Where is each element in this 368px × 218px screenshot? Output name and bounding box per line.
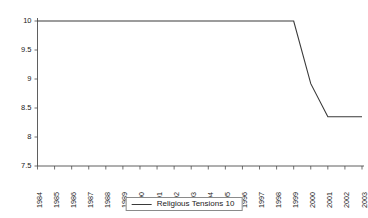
y-tick-label: 9 bbox=[27, 74, 31, 83]
x-tick-label: 1999 bbox=[291, 192, 300, 208]
y-tick-label: 8.5 bbox=[21, 103, 31, 112]
y-tick-group: 109.598.587.5 bbox=[21, 16, 37, 170]
x-tick-label: 1998 bbox=[274, 192, 283, 208]
y-axis: 109.598.587.5 bbox=[21, 16, 37, 170]
x-tick-label: 1988 bbox=[103, 192, 112, 208]
x-tick-label: 1987 bbox=[86, 192, 95, 208]
x-tick-label: 1997 bbox=[257, 192, 266, 208]
legend-label-religious-tensions: Religious Tensions 10 bbox=[157, 199, 235, 209]
line-chart: 109.598.587.5 19841985198619871988198919… bbox=[0, 0, 368, 218]
legend-line-swatch bbox=[132, 204, 152, 205]
y-tick-label: 10 bbox=[23, 16, 31, 25]
x-tick-label: 1985 bbox=[52, 192, 61, 208]
chart-legend: Religious Tensions 10 bbox=[126, 197, 243, 211]
y-tick-label: 9.5 bbox=[21, 45, 31, 54]
x-tick-label: 2003 bbox=[360, 192, 368, 208]
series-group bbox=[38, 21, 363, 117]
chart-canvas: 109.598.587.5 19841985198619871988198919… bbox=[0, 0, 368, 218]
y-tick-label: 8 bbox=[27, 132, 31, 141]
y-tick-label: 7.5 bbox=[21, 161, 31, 170]
x-tick-label: 1986 bbox=[69, 192, 78, 208]
x-tick-label: 1984 bbox=[35, 192, 44, 208]
x-tick-label: 2000 bbox=[308, 192, 317, 208]
x-tick-label: 2001 bbox=[325, 192, 334, 208]
series-line-religious-tensions bbox=[38, 21, 363, 117]
x-tick-label: 2002 bbox=[342, 192, 351, 208]
